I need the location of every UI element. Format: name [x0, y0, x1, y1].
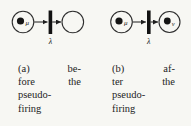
place-circle-empty — [62, 11, 84, 33]
caption-word: the — [68, 75, 81, 88]
transition-bar — [147, 11, 151, 35]
token-label-mu: μ — [124, 19, 128, 27]
caption-panel-tag: (b) — [112, 62, 124, 75]
petri-net-after: μ λ ν — [95, 0, 191, 60]
caption-after: (b) af- ter the pseudo- firing — [112, 62, 175, 115]
caption-panel-tag: (a) — [18, 62, 30, 75]
caption-line: fore the — [18, 75, 81, 88]
token-dot — [17, 17, 24, 24]
token-dot — [164, 18, 171, 25]
caption-line: firing — [112, 102, 175, 115]
transition-label-lambda: λ — [48, 37, 53, 46]
token-label-mu: μ — [26, 19, 30, 27]
transition-label-lambda: λ — [146, 37, 151, 46]
caption-word: fore — [18, 75, 35, 88]
diagram-row: μ λ μ λ ν — [0, 0, 191, 60]
token-label-nu: ν — [172, 20, 175, 27]
caption-line: (a) be- — [18, 62, 81, 75]
caption-before: (a) be- fore the pseudo- firing — [18, 62, 81, 115]
caption-word: af- — [163, 62, 175, 75]
caption-line: (b) af- — [112, 62, 175, 75]
caption-word: the — [162, 75, 175, 88]
caption-word: be- — [68, 62, 81, 75]
caption-line: firing — [18, 102, 81, 115]
token-dot — [115, 17, 122, 24]
figure-petri-net-pseudo-firing: μ λ μ λ ν (a) — [0, 0, 191, 126]
caption-word: ter — [112, 75, 123, 88]
caption-line: ter the — [112, 75, 175, 88]
transition-bar — [49, 11, 53, 35]
caption-line: pseudo- — [18, 88, 81, 101]
caption-line: pseudo- — [112, 88, 175, 101]
petri-net-before: μ λ — [0, 0, 95, 60]
